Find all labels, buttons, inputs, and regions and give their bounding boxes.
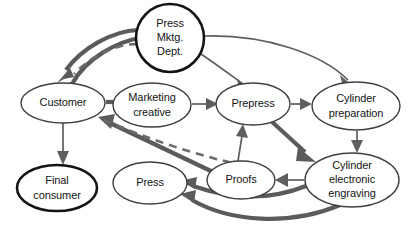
prepress-label: Prepress xyxy=(231,97,275,109)
cylinder-electronic-engraving-label-line-1: Cylinder xyxy=(332,159,372,171)
node-press-mktg-dept[interactable]: Press Mktg. Dept. xyxy=(136,4,204,72)
press-mktg-dept-label-line-1: Press xyxy=(156,17,184,29)
node-cylinder-electronic-engraving[interactable]: Cylinder electronic engraving xyxy=(305,153,399,207)
edge-marketing-creative-to-prepress xyxy=(192,98,218,110)
press-mktg-dept-label-line-3: Dept. xyxy=(157,45,183,57)
edge-prepress-to-cylinder-electronic-engraving xyxy=(270,120,316,162)
edge-proofs-to-prepress xyxy=(236,124,248,161)
edge-prepress-to-cylinder-preparation xyxy=(291,98,312,110)
marketing-creative-label-line-2: creative xyxy=(133,106,171,118)
cylinder-electronic-engraving-label-line-3: engraving xyxy=(328,187,375,199)
node-proofs[interactable]: Proofs xyxy=(207,161,275,199)
customer-label: Customer xyxy=(40,96,87,108)
edge-cylinder-electronic-engraving-to-proofs xyxy=(275,173,304,187)
final-consumer-label-line-2: consumer xyxy=(33,189,81,201)
cylinder-preparation-label-line-1: Cylinder xyxy=(336,92,376,104)
proofs-label: Proofs xyxy=(225,173,257,185)
edge-customer-to-final-consumer xyxy=(57,123,69,165)
final-consumer-label-line-1: Final xyxy=(45,174,68,186)
cylinder-preparation-label-line-2: preparation xyxy=(329,107,384,119)
node-final-consumer[interactable]: Final consumer xyxy=(17,165,97,211)
edge-cylinder-preparation-to-cylinder-electronic-engraving xyxy=(351,131,363,153)
node-customer[interactable]: Customer xyxy=(21,83,105,123)
press-mktg-dept-label-line-2: Mktg. xyxy=(157,31,183,43)
press-label: Press xyxy=(136,176,164,188)
node-marketing-creative[interactable]: Marketing creative xyxy=(113,83,191,127)
node-press[interactable]: Press xyxy=(113,162,187,204)
node-prepress[interactable]: Prepress xyxy=(216,83,290,125)
process-flow-diagram: Press Mktg. Dept. Customer Marketing cre… xyxy=(0,0,409,229)
cylinder-electronic-engraving-label-line-2: electronic xyxy=(329,173,376,185)
node-cylinder-preparation[interactable]: Cylinder preparation xyxy=(312,82,400,130)
edge-press-mktg-dept-to-cylinder-preparation xyxy=(203,36,354,87)
marketing-creative-label-line-1: Marketing xyxy=(128,91,175,103)
flow-diagram-canvas: Press Mktg. Dept. Customer Marketing cre… xyxy=(0,0,409,229)
